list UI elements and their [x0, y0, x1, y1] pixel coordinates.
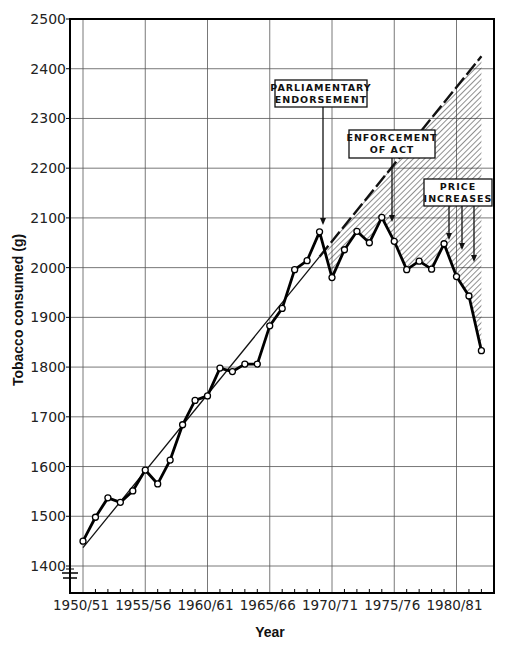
tobacco-consumption-chart: PARLIAMENTARYENDORSEMENTENFORCEMENTOF AC…: [0, 0, 508, 645]
data-point-marker: [317, 229, 323, 235]
data-point-marker: [441, 241, 447, 247]
data-point-marker: [391, 238, 397, 244]
y-tick-label: 2100: [30, 210, 66, 226]
x-tick-label: 1965/66: [240, 597, 296, 613]
y-tick-label: 2000: [30, 260, 66, 276]
data-point-marker: [454, 274, 460, 280]
data-point-marker: [155, 481, 161, 487]
y-tick-label: 1800: [30, 359, 66, 375]
arrow-head-icon: [320, 218, 326, 225]
data-point-marker: [192, 397, 198, 403]
y-tick-label: 1400: [30, 558, 66, 574]
data-point-marker: [304, 258, 310, 264]
y-tick-label: 1900: [30, 309, 66, 325]
callout-label: ENDORSEMENT: [275, 94, 367, 105]
data-point-marker: [466, 293, 472, 299]
x-tick-label: 1955/56: [115, 597, 171, 613]
callout-label: PARLIAMENTARY: [270, 82, 371, 93]
y-tick-label: 1700: [30, 409, 66, 425]
data-point-marker: [130, 488, 136, 494]
data-point-marker: [180, 422, 186, 428]
data-point-marker: [92, 514, 98, 520]
data-point-marker: [117, 499, 123, 505]
x-tick-label: 1975/76: [364, 597, 420, 613]
y-tick-label: 2200: [30, 160, 66, 176]
data-point-marker: [242, 361, 248, 367]
y-axis-title: Tobacco consumed (g): [10, 234, 26, 386]
callout-label: INCREASES: [424, 193, 493, 204]
data-point-marker: [205, 393, 211, 399]
data-point-marker: [292, 267, 298, 273]
y-tick-label: 1600: [30, 459, 66, 475]
x-axis-title: Year: [255, 624, 285, 640]
x-tick-label: 1950/51: [53, 597, 109, 613]
y-tick-label: 1500: [30, 508, 66, 524]
consumption-series: [80, 214, 484, 544]
data-point-marker: [341, 247, 347, 253]
y-axis-ticks: 1400150016001700180019002000210022002300…: [30, 11, 70, 574]
data-point-marker: [379, 214, 385, 220]
x-axis-ticks: 1950/511955/561960/611965/661970/711975/…: [53, 597, 483, 613]
x-tick-label: 1980/81: [426, 597, 482, 613]
callout-label: PRICE: [440, 181, 476, 192]
data-point-marker: [366, 240, 372, 246]
data-point-marker: [142, 467, 148, 473]
data-point-marker: [354, 228, 360, 234]
data-point-marker: [105, 495, 111, 501]
y-tick-label: 2400: [30, 61, 66, 77]
data-point-marker: [404, 267, 410, 273]
data-point-marker: [279, 305, 285, 311]
consumption-line: [83, 217, 481, 541]
y-tick-label: 2300: [30, 110, 66, 126]
data-point-marker: [217, 365, 223, 371]
y-tick-label: 2500: [30, 11, 66, 27]
data-point-marker: [429, 266, 435, 272]
data-point-marker: [416, 258, 422, 264]
x-tick-label: 1960/61: [177, 597, 233, 613]
data-point-marker: [167, 457, 173, 463]
x-tick-label: 1970/71: [302, 597, 358, 613]
data-point-marker: [254, 361, 260, 367]
callout-label: OF ACT: [370, 144, 415, 155]
data-point-marker: [80, 538, 86, 544]
data-point-marker: [229, 369, 235, 375]
data-point-marker: [478, 348, 484, 354]
data-point-marker: [267, 323, 273, 329]
callout-label: ENFORCEMENT: [346, 132, 437, 143]
data-point-marker: [329, 275, 335, 281]
